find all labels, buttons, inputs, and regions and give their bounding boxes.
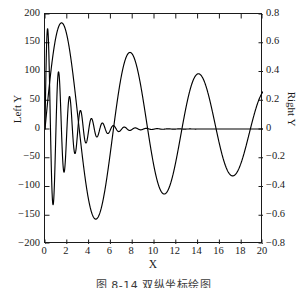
y-right-tick-label: 0.4 [266, 65, 279, 76]
plot-svg [45, 14, 263, 244]
y-right-tick-label: 0.6 [266, 36, 279, 47]
y-left-tick-label: −50 [24, 151, 40, 162]
curve-slow-sine [45, 23, 263, 219]
y-axis-left-title: Left Y [11, 79, 23, 139]
y-right-tick-label: −0.2 [266, 151, 285, 162]
plot-area [44, 13, 262, 243]
y-left-tick-label: 100 [24, 65, 40, 76]
x-tick-label: 20 [247, 246, 277, 257]
y-right-tick-label: −0.4 [266, 180, 285, 191]
y-left-tick-label: 200 [24, 8, 40, 19]
y-right-tick-label: −0.6 [266, 209, 285, 220]
y-left-tick-label: −100 [18, 180, 40, 191]
figure-container: −200−150−100−50050100150200 −0.8−0.6−0.4… [0, 0, 307, 288]
y-right-tick-label: 0 [266, 123, 271, 134]
x-axis-title: X [44, 258, 262, 270]
y-left-tick-label: 0 [35, 123, 40, 134]
y-axis-right-title: Right Y [286, 79, 298, 139]
y-left-tick-label: 50 [30, 94, 41, 105]
figure-caption: 图 8-14 双纵坐标绘图 [0, 276, 307, 288]
y-right-tick-label: 0.8 [266, 8, 279, 19]
y-left-tick-label: −150 [18, 209, 40, 220]
y-left-tick-label: 150 [24, 36, 40, 47]
y-right-tick-label: 0.2 [266, 94, 279, 105]
